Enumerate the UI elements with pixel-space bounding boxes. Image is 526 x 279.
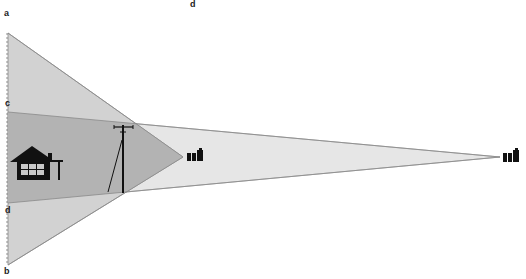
label-b: b (4, 266, 10, 276)
camera-icon (503, 148, 519, 162)
label-a: a (4, 8, 9, 18)
label-d: d (5, 205, 11, 215)
field-of-view-diagram (0, 0, 526, 279)
label-d-top: d (190, 0, 196, 9)
label-c: c (5, 98, 10, 108)
